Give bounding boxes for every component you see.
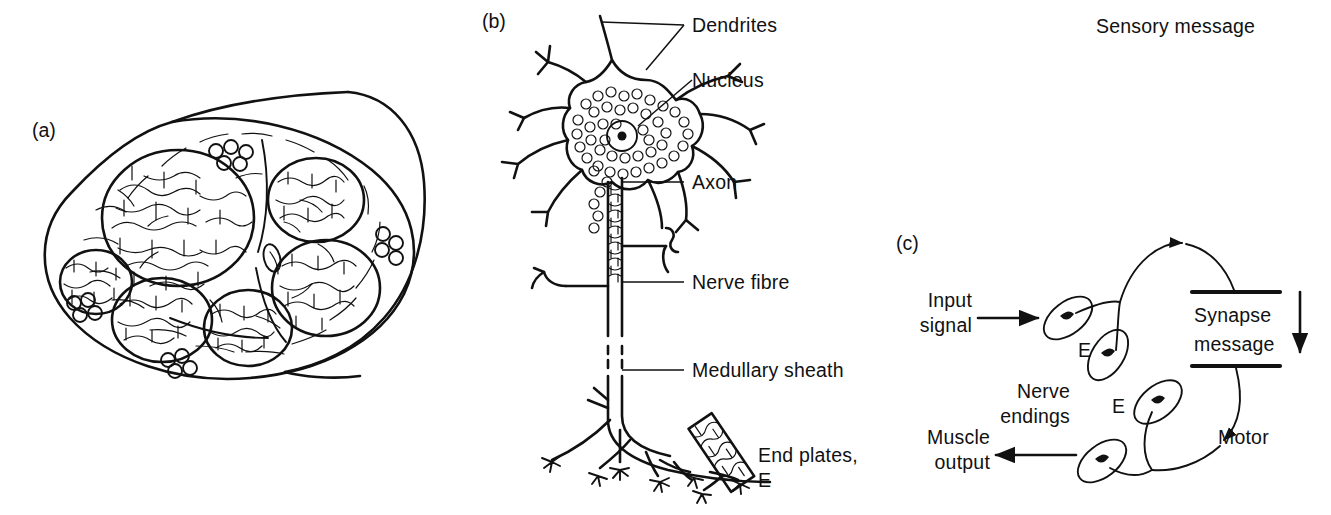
leader-dendrites-lower <box>646 25 684 70</box>
label-input-signal-line2: signal <box>920 314 972 336</box>
fibre-endplate1-join <box>1076 301 1120 313</box>
label-end-plates-e: E <box>758 469 771 491</box>
sensory-message-arc <box>1120 243 1182 302</box>
fascicle-2 <box>60 250 132 314</box>
label-end-plates: End plates, <box>758 444 858 466</box>
label-axon: Axon <box>692 171 737 193</box>
figure-root: (a) <box>0 0 1331 515</box>
label-nucleus: Nucleus <box>692 69 764 91</box>
fibre-endplate3-join <box>1145 412 1153 470</box>
label-end-plate-e-upper: E <box>1078 339 1091 361</box>
axon-break <box>608 346 622 368</box>
panel-a-tag: (a) <box>32 119 56 141</box>
label-nerve-fibre: Nerve fibre <box>692 271 790 293</box>
label-muscle-output-line1: Muscle <box>927 426 990 448</box>
end-plate-3 <box>1126 372 1189 433</box>
fibre-endplate2-join <box>1116 302 1120 350</box>
leader-dendrites-upper <box>601 22 684 25</box>
label-medullary-sheath: Medullary sheath <box>692 359 844 381</box>
label-end-plate-e-lower: E <box>1112 395 1125 417</box>
neuron-soma <box>563 60 703 233</box>
label-nerve-endings-line2: endings <box>1000 405 1070 427</box>
label-synapse-line2: message <box>1194 333 1275 355</box>
dendrites <box>502 16 764 232</box>
blood-vessel <box>261 242 283 273</box>
label-nerve-endings-line1: Nerve <box>1017 380 1070 402</box>
nucleolus <box>618 132 627 141</box>
label-sensory-message: Sensory message <box>1096 15 1255 37</box>
label-muscle-output-line2: output <box>935 451 991 473</box>
panel-c-tag: (c) <box>896 232 919 254</box>
panel-c-signal-flow: Input signal Sensory message Synapse mes… <box>880 0 1331 515</box>
axon <box>532 178 770 482</box>
panel-b-neuron: Dendrites Nucleus Axon Nerve fibre Medul… <box>470 0 880 515</box>
sensory-message-arc-descend <box>1186 244 1234 290</box>
fascicle-3 <box>268 158 364 242</box>
label-motor: Motor <box>1218 426 1269 448</box>
label-synapse-line1: Synapse <box>1194 304 1271 326</box>
cytoplasm-granules <box>572 87 693 233</box>
fat-cell-cluster-top <box>209 140 253 171</box>
label-dendrites: Dendrites <box>692 14 777 36</box>
myelin-texture <box>609 186 621 282</box>
node-of-ranvier <box>588 388 608 408</box>
fascicle-5 <box>112 278 212 362</box>
fascicle-6 <box>204 290 292 366</box>
end-plate-4 <box>1070 431 1134 491</box>
leader-lines <box>601 22 692 370</box>
label-input-signal-line1: Input <box>928 289 973 311</box>
panel-b-tag: (b) <box>482 10 506 32</box>
terminal-branches <box>552 420 738 490</box>
motor-path-return <box>1152 446 1220 470</box>
fascicle-1 <box>102 150 254 290</box>
fascicle-4 <box>272 240 380 336</box>
panel-a-nerve-cross-section: (a) <box>0 0 470 515</box>
